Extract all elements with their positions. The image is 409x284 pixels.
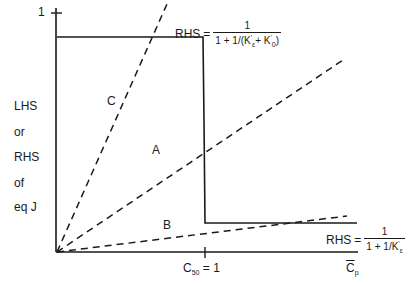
line-label-b: B [163,219,171,231]
y-axis-label-line-2: or [14,126,25,138]
rhs-high-den-prefix: 1 + 1/(K [215,35,250,46]
x-tick-c: C [183,261,192,275]
line-label-a: A [152,144,160,156]
y-axis-label-line-4: of [14,177,24,189]
y-axis-label-line-5: eq J [14,201,37,213]
y-axis-label-line-3: RHS [14,151,39,163]
x-axis-label-sub: p [355,269,359,276]
rhs-high-denominator: 1 + 1/(K'ε+ K'0) [213,32,281,48]
rhs-high-lhs: RHS [175,27,200,41]
rhs-low-formula: RHS = 1 1 + 1/K'ε [326,226,405,254]
rhs-low-eq: = [354,233,361,247]
rhs-high-den-mid: + K [255,35,270,46]
rhs-high-den-suffix: ) [276,35,279,46]
rhs-high-numerator: 1 [242,20,252,32]
x-axis-label: Cp [346,262,359,276]
rhs-high-eq: = [203,27,210,41]
rhs-low-den-sub: ε [400,247,403,254]
rhs-low-den-prefix: 1 + 1/K [366,241,398,252]
x-axis-label-c: C [346,261,355,275]
rhs-low-numerator: 1 [380,226,390,238]
y-axis-label-line-1: LHS [14,100,37,112]
rhs-low-lhs: RHS [326,233,351,247]
dashed-line-b [57,216,347,252]
x-tick-rest: = 1 [203,261,220,275]
x-tick-label: C50 = 1 [183,262,220,276]
rhs-high-formula: RHS = 1 1 + 1/(K'ε+ K'0) [175,20,281,48]
rhs-step-curve [57,37,357,223]
x-tick-sub: 50 [192,269,200,276]
rhs-low-denominator: 1 + 1/K'ε [364,238,404,254]
line-label-c: C [107,95,116,107]
y-tick-label: 1 [38,6,45,18]
